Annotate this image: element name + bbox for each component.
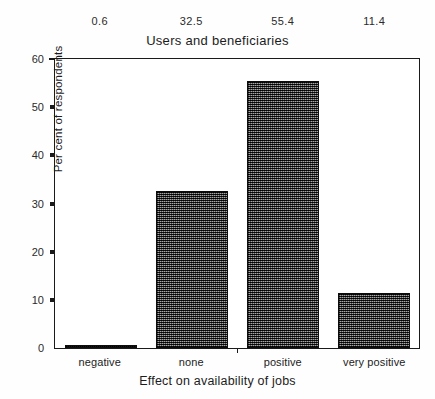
bar-slot-negative <box>55 59 146 348</box>
plot-area: Per cent of respondents 60 50 40 30 20 1… <box>54 58 420 349</box>
x-tick-label-very-positive: very positive <box>329 353 421 371</box>
y-tick-label-30: 30 <box>32 196 44 212</box>
x-tick-label-none: none <box>146 353 238 371</box>
y-tick-label-20: 20 <box>32 244 44 260</box>
chart-title: Users and beneficiaries <box>0 33 435 48</box>
bar-chart-figure: 0.6 32.5 55.4 11.4 Users and beneficiari… <box>0 0 435 399</box>
bars-layer <box>55 59 419 348</box>
y-tick-label-40: 40 <box>32 147 44 163</box>
bar-positive[interactable] <box>247 81 319 348</box>
data-value-very-positive: 11.4 <box>329 12 421 30</box>
x-axis-tick-labels: negative none positive very positive <box>54 353 420 371</box>
data-value-row: 0.6 32.5 55.4 11.4 <box>54 12 420 30</box>
y-tick-label-10: 10 <box>32 292 44 308</box>
bar-none[interactable] <box>156 191 228 348</box>
y-tick-label-0: 0 <box>38 340 44 356</box>
data-value-none: 32.5 <box>146 12 238 30</box>
bar-negative[interactable] <box>65 345 137 348</box>
x-tick-label-positive: positive <box>237 353 329 371</box>
bar-slot-none <box>146 59 237 348</box>
x-tick-label-negative: negative <box>54 353 146 371</box>
data-value-positive: 55.4 <box>237 12 329 30</box>
data-value-negative: 0.6 <box>54 12 146 30</box>
y-tick-label-60: 60 <box>32 51 44 67</box>
x-axis-title: Effect on availability of jobs <box>0 374 435 388</box>
y-tick-label-50: 50 <box>32 99 44 115</box>
bar-slot-positive <box>237 59 328 348</box>
bar-very-positive[interactable] <box>338 293 410 348</box>
bar-slot-very-positive <box>328 59 419 348</box>
